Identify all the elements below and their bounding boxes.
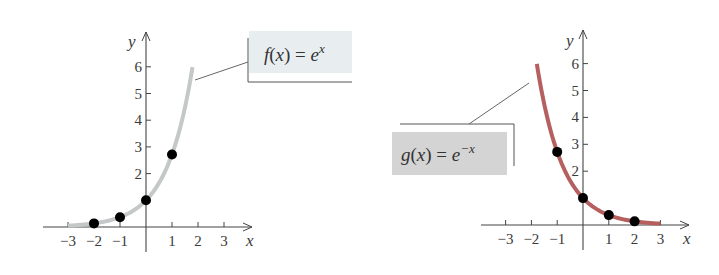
x-tick-label: −2	[86, 233, 102, 249]
x-tick-label: 2	[631, 231, 639, 247]
x-tick-label: −3	[498, 231, 514, 247]
leader-line	[195, 62, 248, 80]
x-tick-label: −1	[112, 233, 128, 249]
y-tick-label: 6	[135, 59, 143, 75]
y-tick-label: 4	[572, 109, 580, 125]
function-curve	[68, 67, 193, 226]
data-point	[167, 149, 177, 159]
function-curve	[537, 64, 661, 224]
x-tick-label: 3	[657, 231, 665, 247]
data-point	[552, 147, 562, 157]
x-tick-label: 1	[605, 231, 613, 247]
data-point	[630, 216, 640, 226]
y-tick-label: 2	[135, 166, 143, 182]
x-tick-label: −1	[549, 231, 565, 247]
data-point	[141, 195, 151, 205]
y-tick-label: 5	[135, 86, 143, 102]
y-axis-label: y	[564, 31, 574, 50]
x-tick-label: 1	[168, 233, 176, 249]
y-tick-label: 6	[572, 56, 580, 72]
function-label: f(x) = ex	[264, 41, 325, 66]
x-tick-label: 2	[194, 233, 202, 249]
leader-line	[469, 83, 529, 124]
x-axis-label: x	[682, 229, 691, 248]
y-tick-label: 3	[572, 136, 580, 152]
data-point	[115, 212, 125, 222]
x-tick-label: −2	[523, 231, 539, 247]
data-point	[89, 218, 99, 228]
x-tick-label: 3	[220, 233, 228, 249]
y-tick-label: 5	[572, 83, 580, 99]
data-point	[604, 210, 614, 220]
chart-panel-f: f(x) = ex−3−2−112323456yx	[43, 31, 352, 252]
y-axis-label: y	[126, 32, 136, 51]
x-tick-label: −3	[60, 233, 76, 249]
data-point	[578, 193, 588, 203]
chart-panel-g: g(x) = e−x−3−2−112323456yx	[392, 30, 691, 250]
y-tick-label: 4	[135, 112, 143, 128]
x-axis-label: x	[245, 231, 254, 250]
figure-canvas: f(x) = ex−3−2−112323456yxg(x) = e−x−3−2−…	[0, 0, 719, 275]
y-tick-label: 2	[572, 163, 580, 179]
y-tick-label: 3	[135, 139, 143, 155]
